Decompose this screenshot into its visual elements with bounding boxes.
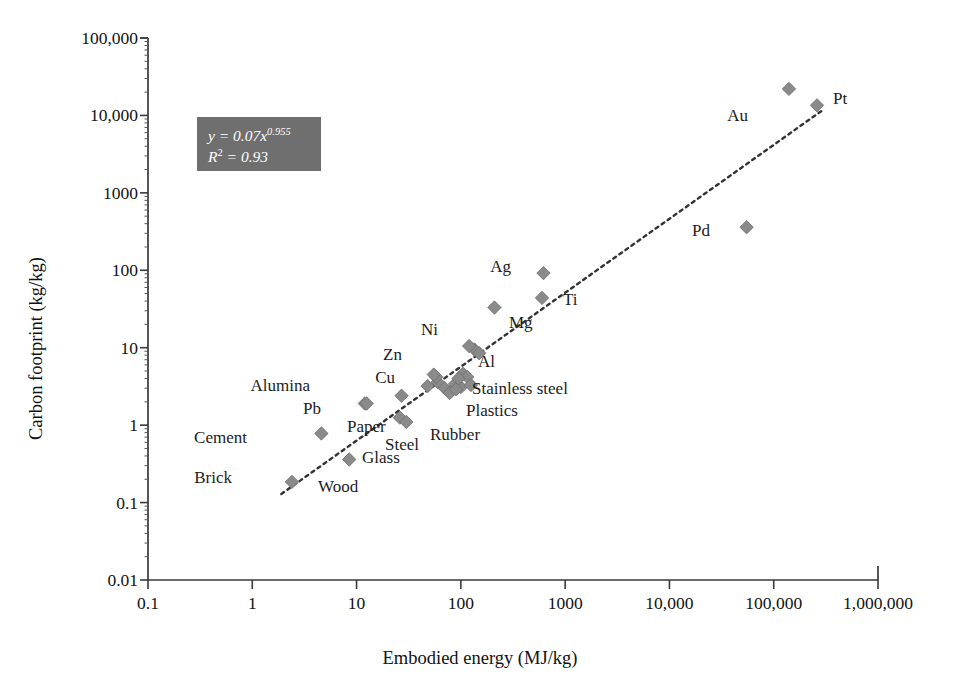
x-tick-label: 1,000,000	[808, 593, 948, 614]
point-label-zn: Zn	[0, 346, 402, 363]
data-marker	[740, 221, 753, 234]
data-marker	[343, 453, 356, 466]
data-marker	[782, 82, 795, 95]
point-label-ti: Ti	[563, 291, 578, 308]
data-marker	[535, 291, 548, 304]
trendline	[281, 110, 823, 494]
carbon-footprint-scatter-chart: 0.010.1110100100010,000100,000 0.1110100…	[0, 0, 960, 695]
point-label-stainless-steel: Stainless steel	[472, 380, 568, 397]
point-label-pd: Pd	[0, 222, 710, 239]
y-tick-label: 100,000	[40, 28, 138, 49]
y-tick-label: 0.1	[40, 493, 138, 514]
point-label-al: Al	[478, 353, 495, 370]
data-marker	[488, 301, 501, 314]
data-marker	[810, 99, 823, 112]
equation-base: y = 0.07x	[208, 127, 267, 144]
point-label-pt: Pt	[833, 90, 847, 107]
point-label-ag: Ag	[0, 258, 511, 275]
y-axis-title: Carbon footprint (kg/kg)	[26, 257, 47, 440]
regression-annotation-box: y = 0.07x0.955 R2 = 0.93	[197, 117, 321, 171]
regression-equation: y = 0.07x0.955	[208, 126, 291, 145]
y-tick-label: 1000	[40, 183, 138, 204]
point-label-ni: Ni	[0, 321, 438, 338]
y-tick-label: 0.01	[40, 570, 138, 591]
point-label-au: Au	[0, 107, 748, 124]
point-label-rubber: Rubber	[430, 426, 480, 443]
r-squared-value: R2 = 0.93	[208, 147, 268, 166]
point-label-mg: Mg	[509, 314, 533, 331]
x-axis-title: Embodied energy (MJ/kg)	[0, 648, 960, 669]
data-marker	[315, 427, 328, 440]
data-marker	[285, 475, 298, 488]
data-marker	[395, 389, 408, 402]
point-label-plastics: Plastics	[466, 402, 518, 419]
point-label-pb: Pb	[0, 400, 321, 417]
data-marker	[537, 266, 550, 279]
data-marker	[360, 397, 373, 410]
point-label-paper: Paper	[347, 418, 386, 435]
r2-number: = 0.93	[223, 148, 268, 165]
point-label-brick: Brick	[0, 469, 232, 486]
equation-exponent: 0.955	[267, 126, 291, 137]
point-label-wood: Wood	[318, 478, 358, 495]
point-label-steel: Steel	[385, 436, 419, 453]
point-label-cu: Cu	[0, 369, 395, 386]
